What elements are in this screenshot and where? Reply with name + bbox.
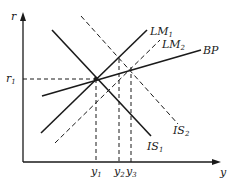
y1-label: y1 [90,165,102,179]
is1-curve [52,30,151,136]
bp-label: BP [202,44,219,57]
x-axis-label: y [219,166,227,179]
x-axis-arrow-icon [212,159,221,165]
is2-label: IS2 [172,124,190,138]
y-axis-arrow-icon [20,12,26,21]
is1-label: IS1 [146,140,163,154]
y3-label: y3 [125,165,137,179]
bp-curve [42,50,201,96]
axes [20,12,221,165]
lm2-curve [55,40,160,143]
lm2-label: LM2 [161,38,186,52]
lm1-label: LM1 [149,25,173,39]
y2-label: y2 [113,165,125,179]
equilibrium-point [94,77,98,81]
r1-label: r1 [6,72,16,86]
y-axis-label: r [11,10,17,23]
is-lm-bp-diagram: r y r1 y1 y2 y3 LM1 LM2 BP IS2 IS1 [0,0,236,182]
